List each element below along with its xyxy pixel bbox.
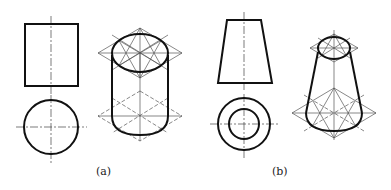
top-view-frustum: [210, 94, 280, 160]
figure-a: [16, 16, 182, 163]
technical-drawing: [0, 0, 391, 190]
figure-a-label: (a): [96, 165, 111, 178]
front-view-cylinder: [25, 16, 78, 96]
top-view-cylinder: [16, 95, 87, 163]
front-view-frustum: [218, 12, 272, 92]
isometric-cylinder: [98, 28, 182, 141]
figure-b: [210, 12, 376, 160]
figure-b-label: (b): [272, 165, 288, 178]
isometric-frustum: [292, 30, 376, 140]
